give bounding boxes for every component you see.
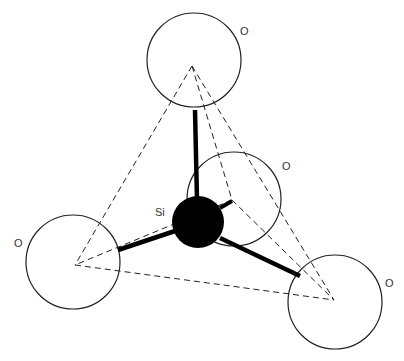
oxygen-atom-right	[288, 255, 382, 349]
label-oxygen-right: O	[385, 277, 394, 289]
oxygen-atom-left	[26, 215, 120, 309]
label-oxygen-left: O	[14, 237, 23, 249]
silica-tetrahedron-diagram: Si O O O O	[0, 0, 404, 361]
label-si: Si	[155, 206, 165, 218]
tetrahedron-edges	[75, 66, 334, 300]
oxygen-atom-top	[147, 13, 241, 107]
si-o-bonds	[118, 110, 300, 276]
label-oxygen-back: O	[282, 160, 291, 172]
label-oxygen-top: O	[240, 25, 249, 37]
silicon-atom	[172, 196, 224, 248]
